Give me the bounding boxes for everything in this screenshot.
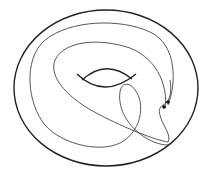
torus-diagram [0, 0, 212, 179]
point-a [166, 100, 170, 104]
curve-middle-loop [54, 42, 169, 142]
curve-outer-loop [30, 23, 173, 147]
curve-inner-strand [159, 80, 171, 115]
point-b [162, 105, 166, 109]
torus-hole-upper-arc [82, 69, 132, 80]
